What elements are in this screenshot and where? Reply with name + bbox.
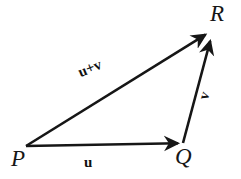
vector-triangle-svg	[0, 0, 241, 179]
vertex-label-p: P	[11, 147, 25, 170]
vector-line-u-plus-v	[26, 35, 206, 146]
vector-label-u: u	[84, 155, 92, 170]
vertex-label-r: R	[210, 2, 224, 25]
vector-line-u	[26, 143, 178, 146]
vector-diagram-canvas: P Q R u v u+v	[0, 0, 241, 179]
vertex-label-q: Q	[175, 145, 192, 168]
